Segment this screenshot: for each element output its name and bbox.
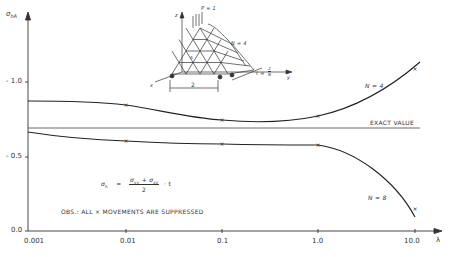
inset-diagram bbox=[155, 12, 292, 92]
inset-y-label: y bbox=[287, 74, 290, 80]
formula-denominator: 2 bbox=[142, 186, 146, 193]
svg-text:×: × bbox=[315, 141, 320, 148]
x-tick-label: 0.001 bbox=[24, 237, 44, 245]
y-axis bbox=[25, 12, 31, 231]
inset-load-label: P = 1 bbox=[201, 5, 216, 11]
series-n8-label: N = 8 bbox=[368, 194, 387, 201]
x-axis bbox=[28, 229, 442, 234]
svg-text:×: × bbox=[412, 205, 417, 212]
svg-text:×: × bbox=[315, 112, 320, 119]
inset-z-label: z bbox=[175, 12, 178, 18]
x-tick-label: 10.0 bbox=[404, 237, 420, 245]
y-axis-label: σhA bbox=[6, 10, 17, 19]
inset-point-label: A bbox=[190, 55, 193, 60]
svg-text:×: × bbox=[219, 116, 224, 123]
x-axis-label: λ bbox=[436, 236, 440, 244]
chart-canvas: × × × × × × × × bbox=[0, 0, 454, 257]
obs-note: OBS.: ALL × MOVEMENTS ARE SUPPRESSED bbox=[61, 208, 204, 215]
svg-text:×: × bbox=[123, 137, 128, 144]
formula: σh = bbox=[101, 180, 122, 189]
x-tick-label: 0.01 bbox=[120, 237, 136, 245]
series-n4-line bbox=[28, 62, 420, 122]
svg-text:×: × bbox=[123, 101, 128, 108]
formula-tail: · t bbox=[164, 180, 171, 187]
inset-n-label: N = 4 bbox=[231, 40, 247, 46]
svg-text:×: × bbox=[219, 140, 224, 147]
inset-width-label: 2 bbox=[191, 81, 195, 88]
series-n4-label: N = 4 bbox=[365, 82, 384, 89]
y-tick-label: 0.0 bbox=[11, 226, 22, 234]
svg-text:×: × bbox=[412, 65, 417, 72]
y-tick-label: - 1.0 bbox=[6, 77, 22, 85]
fraction-bar bbox=[129, 184, 159, 185]
exact-value-label: EXACT VALUE bbox=[370, 119, 414, 126]
y-tick-label: - 0.5 bbox=[6, 152, 22, 160]
inset-x-label: x bbox=[150, 82, 153, 88]
inset-t-fraction: 2 N bbox=[268, 66, 271, 77]
x-tick-label: 0.1 bbox=[217, 237, 228, 245]
x-tick-label: 1.0 bbox=[312, 237, 323, 245]
inset-t-label: t = bbox=[256, 70, 265, 76]
